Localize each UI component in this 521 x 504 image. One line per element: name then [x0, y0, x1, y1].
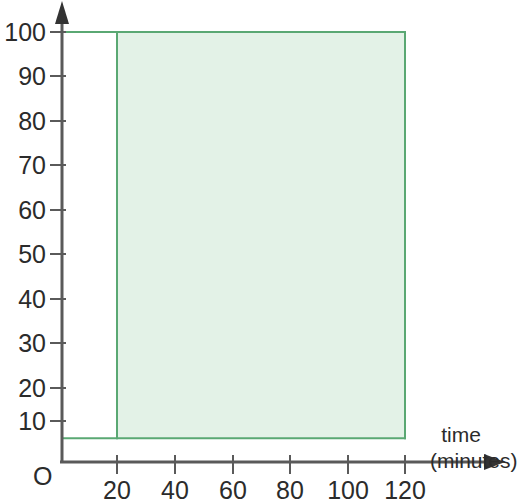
y-tick-label-80: 80 — [0, 107, 46, 136]
x-tick-label-120: 120 — [370, 476, 440, 504]
origin-label: O — [33, 462, 52, 491]
chart-container: (cut off at top of image) 100 90 80 70 6… — [0, 0, 521, 504]
y-tick-label-30: 30 — [0, 329, 46, 358]
y-tick-label-70: 70 — [0, 151, 46, 180]
x-axis-title: time (minutes) — [430, 422, 518, 474]
y-tick-label-10: 10 — [0, 407, 46, 436]
x-axis-title-line1: time — [430, 422, 492, 448]
x-axis-ticks — [117, 455, 405, 474]
y-axis-arrow-icon — [55, 1, 69, 24]
y-axis-ticks — [50, 32, 66, 421]
y-tick-label-50: 50 — [0, 240, 46, 269]
x-axis-title-line2: (minutes) — [430, 448, 518, 474]
y-tick-label-40: 40 — [0, 285, 46, 314]
y-tick-label-60: 60 — [0, 196, 46, 225]
y-tick-label-20: 20 — [0, 374, 46, 403]
shaded-region — [117, 32, 405, 438]
y-tick-label-90: 90 — [0, 62, 46, 91]
y-tick-label-100: 100 — [0, 18, 46, 47]
